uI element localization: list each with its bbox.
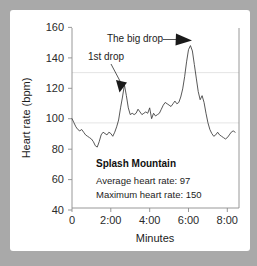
x-tick-labels: 0 2:00 4:00 6:00 8:00 [69,214,238,226]
y-tick-label-60: 60 [52,173,64,185]
x-tick-label-4-00: 4:00 [139,214,160,226]
x-tick-label-2-00: 2:00 [100,214,121,226]
stats-average-line: Average heart rate: 97 [96,175,190,186]
y-tick-label-100: 100 [46,112,64,124]
y-tick-labels: 160 140 120 100 80 60 40 [46,21,64,216]
annotation-big-drop: The big drop [107,33,192,46]
x-tick-label-0: 0 [69,214,75,226]
screenshot-root: 160 140 120 100 80 60 40 0 2:00 4:00 [0,0,257,266]
heart-rate-line-chart: 160 140 120 100 80 60 40 0 2:00 4:00 [10,10,250,251]
stats-maximum-line: Maximum heart rate: 150 [96,189,202,200]
stats-title: Splash Mountain [96,158,176,169]
y-tick-label-160: 160 [46,21,64,33]
annotation-big-drop-arrowhead [176,34,193,46]
x-axis-title: Minutes [136,232,175,244]
y-tick-label-80: 80 [52,143,64,155]
x-tick-label-8-00: 8:00 [217,214,238,226]
y-tick-label-40: 40 [52,204,64,216]
y-tick-label-120: 120 [46,82,64,94]
x-tick-marks [72,208,227,212]
chart-card: 160 140 120 100 80 60 40 0 2:00 4:00 [10,10,250,251]
y-tick-label-140: 140 [46,52,64,64]
annotation-first-drop-label: 1st drop [88,51,125,62]
stats-box: Splash Mountain Average heart rate: 97 M… [96,158,202,200]
annotation-first-drop: 1st drop [88,51,127,93]
x-tick-label-6-00: 6:00 [178,214,199,226]
y-tick-marks [68,27,72,210]
annotation-big-drop-label: The big drop [107,33,164,44]
y-axis-title: Heart rate (bpm) [20,78,32,159]
